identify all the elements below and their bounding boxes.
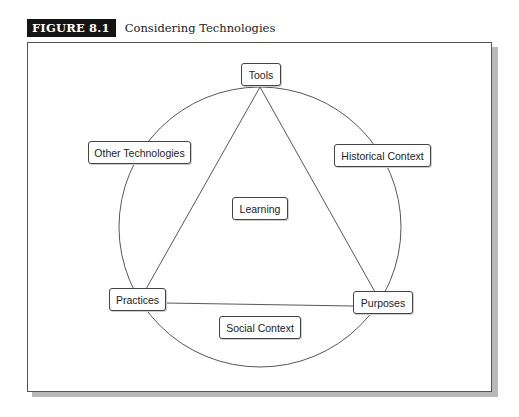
node-historical-context: Historical Context [334, 144, 431, 167]
node-other-technologies: Other Technologies [88, 141, 191, 164]
node-historical-context-label: Historical Context [341, 150, 423, 162]
node-practices: Practices [109, 288, 166, 311]
node-learning: Learning [232, 197, 288, 220]
node-learning-label: Learning [240, 203, 281, 215]
edge-practices-purposes [165, 303, 353, 306]
node-tools-label: Tools [249, 69, 274, 81]
node-social-context: Social Context [219, 316, 301, 339]
node-social-context-label: Social Context [226, 322, 294, 334]
edge-tools-practices [146, 87, 260, 289]
node-tools: Tools [241, 63, 281, 86]
node-other-technologies-label: Other Technologies [94, 147, 184, 159]
edge-tools-purposes [260, 87, 375, 292]
node-practices-label: Practices [116, 294, 159, 306]
node-purposes: Purposes [353, 291, 413, 314]
node-purposes-label: Purposes [361, 297, 405, 309]
